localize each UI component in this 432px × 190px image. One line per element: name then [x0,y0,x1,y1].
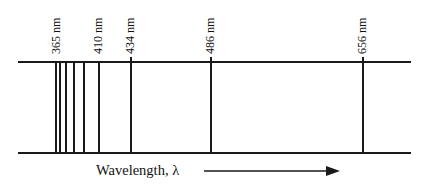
wavelength-arrow-icon [0,0,432,190]
